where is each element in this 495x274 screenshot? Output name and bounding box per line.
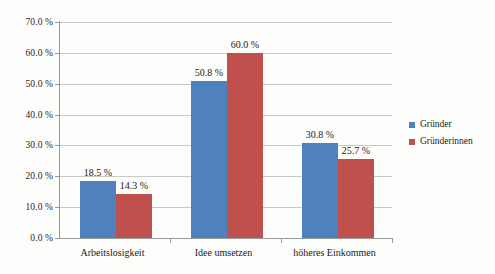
y-tick-mark-30: [55, 145, 60, 146]
y-tick-label-30: 30.0 %: [1, 140, 53, 150]
bar-value-label-gruender-hoeheres-einkommen: 30.8 %: [294, 129, 346, 140]
bar-value-label-gruenderinnen-hoeheres-einkommen: 25.7 %: [330, 145, 382, 156]
x-category-label-idee-umsetzen: Idee umsetzen: [166, 247, 281, 259]
legend-label-gruenderinnen: Gründerinnen: [420, 136, 473, 147]
x-category-label-hoeheres-einkommen: höheres Einkommen: [277, 247, 392, 259]
legend-item-gruender: Gründer: [409, 116, 495, 133]
x-category-label-arbeitslosigkeit: Arbeitslosigkeit: [55, 247, 170, 259]
y-tick-label-70: 70.0 %: [1, 17, 53, 27]
legend-swatch-icon-gruender: [409, 122, 415, 128]
y-tick-label-0: 0.0 %: [1, 233, 53, 243]
y-tick-label-50: 50.0 %: [1, 79, 53, 89]
bar-chart-figure: 70.0 % 60.0 % 50.0 % 40.0 % 30.0 % 20.0 …: [0, 0, 495, 274]
legend-label-gruender: Gründer: [420, 119, 452, 130]
y-tick-mark-10: [55, 207, 60, 208]
legend-item-gruenderinnen: Gründerinnen: [409, 133, 495, 150]
y-tick-mark-20: [55, 176, 60, 177]
y-tick-mark-40: [55, 115, 60, 116]
x-axis-line: [59, 238, 393, 239]
x-tick-mark-1: [170, 238, 171, 243]
bar-gruender-idee-umsetzen: [191, 81, 227, 238]
x-tick-mark-3: [392, 238, 393, 243]
x-tick-mark-2: [281, 238, 282, 243]
y-tick-mark-0: [55, 238, 60, 239]
y-tick-mark-60: [55, 53, 60, 54]
y-tick-label-60: 60.0 %: [1, 48, 53, 58]
bar-gruender-hoeheres-einkommen: [302, 143, 338, 238]
bar-gruenderinnen-arbeitslosigkeit: [116, 194, 152, 238]
y-axis-labels: 70.0 % 60.0 % 50.0 % 40.0 % 30.0 % 20.0 …: [0, 0, 53, 274]
bar-value-label-gruender-arbeitslosigkeit: 18.5 %: [72, 167, 124, 178]
y-tick-label-10: 10.0 %: [1, 202, 53, 212]
gridline-60: [60, 53, 392, 54]
bar-value-label-gruenderinnen-arbeitslosigkeit: 14.3 %: [108, 180, 160, 191]
y-tick-label-40: 40.0 %: [1, 110, 53, 120]
bar-value-label-gruenderinnen-idee-umsetzen: 60.0 %: [219, 39, 271, 50]
chart-legend: Gründer Gründerinnen: [409, 116, 495, 150]
bar-gruenderinnen-hoeheres-einkommen: [338, 159, 374, 238]
bar-value-label-gruender-idee-umsetzen: 50.8 %: [183, 67, 235, 78]
legend-swatch-icon-gruenderinnen: [409, 139, 415, 145]
gridline-70: [60, 22, 392, 23]
y-tick-label-20: 20.0 %: [1, 171, 53, 181]
y-tick-mark-50: [55, 84, 60, 85]
bar-gruenderinnen-idee-umsetzen: [227, 53, 263, 238]
y-tick-mark-70: [55, 22, 60, 23]
